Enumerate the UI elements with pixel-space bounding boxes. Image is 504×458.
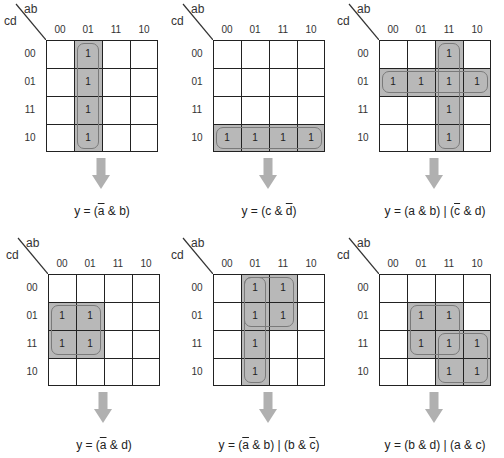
down-arrow-icon xyxy=(259,158,277,190)
row-header: 11 xyxy=(351,96,375,124)
column-header: 01 xyxy=(407,258,435,269)
column-header: 00 xyxy=(213,258,241,269)
cell-value-one: 1 xyxy=(269,302,297,330)
equation-term: ) xyxy=(293,204,297,218)
row-variable-label: cd xyxy=(337,248,350,262)
karnaugh-map: abcd00011110000111101111111y = (b & d) |… xyxy=(333,234,493,434)
grid-line xyxy=(46,124,158,125)
cell-value-one: 1 xyxy=(241,274,269,302)
column-header: 01 xyxy=(407,24,435,35)
row-header: 11 xyxy=(185,96,209,124)
cell-value-one: 1 xyxy=(435,124,463,152)
row-header: 11 xyxy=(185,330,209,358)
kmap-grid: 1111111 xyxy=(379,40,491,152)
row-header: 01 xyxy=(351,302,375,330)
column-variable-label: ab xyxy=(24,2,37,16)
grid-line xyxy=(46,151,158,152)
down-arrow-icon xyxy=(425,158,443,190)
row-header: 10 xyxy=(18,124,42,152)
cell-value-one: 1 xyxy=(435,68,463,96)
column-header: 00 xyxy=(379,24,407,35)
row-header: 11 xyxy=(351,330,375,358)
grid-line xyxy=(159,274,160,386)
equation-term: a xyxy=(100,438,107,452)
column-header: 00 xyxy=(379,258,407,269)
cell-value-one: 1 xyxy=(76,330,104,358)
column-variable-label: ab xyxy=(357,2,370,16)
row-header: 00 xyxy=(185,274,209,302)
karnaugh-map: abcd00011110000111101111y = (c & d) xyxy=(167,0,327,200)
cell-value-one: 1 xyxy=(213,124,241,152)
equation-term: y = ( xyxy=(219,438,243,452)
row-header: 10 xyxy=(185,358,209,386)
grid-line xyxy=(463,40,464,152)
boolean-equation: y = (b & d) | (a & c) xyxy=(335,438,504,452)
column-header: 11 xyxy=(435,24,463,35)
column-header: 11 xyxy=(435,258,463,269)
cell-value-one: 1 xyxy=(407,68,435,96)
column-header: 11 xyxy=(269,24,297,35)
down-arrow-icon xyxy=(94,392,112,424)
row-header: 00 xyxy=(185,40,209,68)
kmap-grid: 1111 xyxy=(48,274,160,386)
equation-term: ) xyxy=(315,438,319,452)
column-header: 11 xyxy=(102,24,130,35)
cell-value-one: 1 xyxy=(435,40,463,68)
equation-term: d xyxy=(286,204,293,218)
row-header: 10 xyxy=(185,124,209,152)
down-arrow-icon xyxy=(425,392,443,424)
kmap-grid: 111111 xyxy=(213,274,325,386)
karnaugh-map: abcd00011110000111101111y = (a & d) xyxy=(2,234,162,434)
cell-value-one: 1 xyxy=(48,302,76,330)
row-variable-label: cd xyxy=(171,14,184,28)
column-header: 10 xyxy=(130,24,158,35)
cell-value-one: 1 xyxy=(463,358,491,386)
grid-line xyxy=(213,358,325,359)
column-header: 10 xyxy=(463,258,491,269)
cell-value-one: 1 xyxy=(241,302,269,330)
column-header: 10 xyxy=(297,258,325,269)
equation-term: y = (a & b) | ( xyxy=(385,204,454,218)
cell-value-one: 1 xyxy=(241,330,269,358)
column-header: 01 xyxy=(241,258,269,269)
cell-value-one: 1 xyxy=(269,274,297,302)
column-header: 01 xyxy=(74,24,102,35)
grid-line xyxy=(48,358,160,359)
row-header: 11 xyxy=(18,96,42,124)
kmap-grid: 1111 xyxy=(213,40,325,152)
row-variable-label: cd xyxy=(337,14,350,28)
cell-value-one: 1 xyxy=(407,302,435,330)
grid-line xyxy=(490,40,491,152)
row-variable-label: cd xyxy=(171,248,184,262)
cell-value-one: 1 xyxy=(463,330,491,358)
down-arrow-icon xyxy=(92,158,110,190)
column-variable-label: ab xyxy=(357,236,370,250)
row-header: 11 xyxy=(20,330,44,358)
cell-value-one: 1 xyxy=(435,96,463,124)
row-header: 01 xyxy=(185,68,209,96)
cell-value-one: 1 xyxy=(76,302,104,330)
column-variable-label: ab xyxy=(191,2,204,16)
cell-value-one: 1 xyxy=(379,68,407,96)
cell-value-one: 1 xyxy=(407,330,435,358)
column-header: 10 xyxy=(132,258,160,269)
row-header: 01 xyxy=(20,302,44,330)
equation-term: & b) xyxy=(105,204,130,218)
equation-term: a xyxy=(242,438,249,452)
cell-value-one: 1 xyxy=(435,358,463,386)
grid-line xyxy=(48,385,160,386)
equation-term: & d) xyxy=(107,438,132,452)
cell-value-one: 1 xyxy=(463,68,491,96)
row-header: 00 xyxy=(351,274,375,302)
cell-value-one: 1 xyxy=(241,124,269,152)
row-header: 01 xyxy=(185,302,209,330)
grid-line xyxy=(213,385,325,386)
row-header: 01 xyxy=(351,68,375,96)
cell-value-one: 1 xyxy=(74,40,102,68)
grid-line xyxy=(130,40,131,152)
column-header: 01 xyxy=(76,258,104,269)
row-header: 00 xyxy=(18,40,42,68)
column-header: 00 xyxy=(213,24,241,35)
grid-line xyxy=(324,274,325,386)
equation-term: y = ( xyxy=(74,204,98,218)
